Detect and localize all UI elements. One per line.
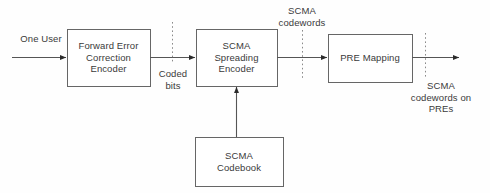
signal-label-one-user: One User (10, 33, 72, 45)
block-diagram: Forward Error Correction Encoder SCMA Sp… (0, 0, 490, 193)
block-label-scma-spreading-encoder: SCMA Spreading Encoder (196, 29, 277, 86)
block-label-forward-error-correction-encoder: Forward Error Correction Encoder (67, 29, 150, 86)
block-label-pre-mapping: PRE Mapping (328, 34, 412, 82)
signal-label-scma-codewords-on-pres: SCMA codewords on PREs (395, 80, 487, 115)
signal-label-scma-codewords: SCMA codewords (264, 5, 340, 28)
block-label-scma-codebook: SCMA Codebook (195, 137, 283, 186)
signal-label-coded-bits: Coded bits (150, 68, 196, 91)
